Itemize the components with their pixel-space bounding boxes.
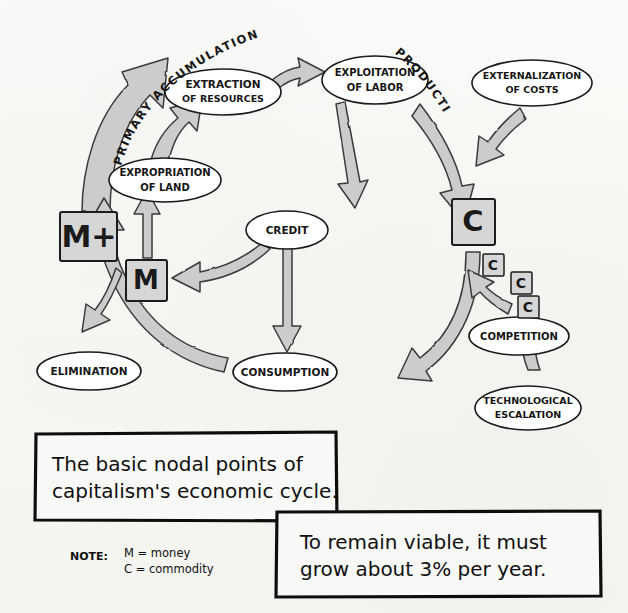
captions-layer: The basic nodal points of capitalism's e… — [0, 0, 628, 613]
caption-primary-line1: The basic nodal points of — [51, 452, 304, 476]
note-line-money: M = money — [124, 546, 190, 560]
caption-primary-line2: capitalism's economic cycle. — [52, 479, 338, 503]
note-label: NOTE: — [70, 550, 108, 563]
note-line-commodity: C = commodity — [124, 562, 214, 576]
caption-box-primary: The basic nodal points of capitalism's e… — [35, 432, 338, 521]
diagram-canvas: EXTRACTION OF RESOURCES EXPLOITATION OF … — [0, 0, 628, 613]
caption-box-primary-border — [35, 432, 337, 521]
caption-box-secondary-border — [276, 511, 601, 597]
caption-secondary-line2: grow about 3% per year. — [300, 557, 546, 581]
note-block: NOTE: M = money C = commodity — [70, 546, 214, 576]
caption-box-secondary: To remain viable, it must grow about 3% … — [276, 511, 601, 597]
caption-secondary-line1: To remain viable, it must — [299, 530, 547, 554]
